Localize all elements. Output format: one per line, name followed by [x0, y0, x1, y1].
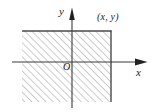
x-axis-arrowhead	[135, 59, 148, 66]
origin-label: O	[63, 62, 70, 72]
coordinate-plane-figure: y x O (x, y)	[0, 0, 154, 112]
y-axis-label: y	[59, 6, 64, 17]
point-coordinate-label: (x, y)	[97, 12, 119, 22]
y-axis-arrowhead	[69, 8, 75, 21]
x-axis-label: x	[136, 67, 141, 78]
figure-canvas	[0, 0, 154, 112]
